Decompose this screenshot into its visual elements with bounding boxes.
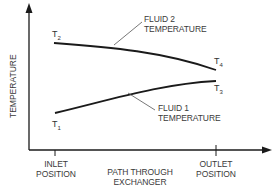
fluid-1-leader-line [128,93,155,110]
inlet-position-label: INLET POSITION [34,159,78,179]
point-t4: T4 [214,56,223,68]
outlet-position-label: OUTLET POSITION [192,159,240,179]
point-t1: T1 [52,119,61,131]
point-t2: T2 [52,29,61,41]
x-axis-label: PATH THROUGH EXCHANGER [100,167,180,187]
fluid-2-label: FLUID 2 TEMPERATURE [144,14,207,34]
fluid-2-leader-line [114,22,142,45]
fluid-2-curve [54,43,216,70]
fluid-1-label: FLUID 1 TEMPERATURE [158,103,221,123]
x-axis-arrow-icon [262,147,272,154]
y-axis-label: TEMPERATURE [8,54,18,118]
y-axis-arrow-icon [26,3,33,13]
point-t3: T3 [214,83,223,95]
